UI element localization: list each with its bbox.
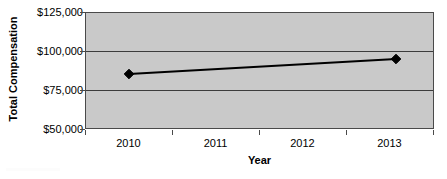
y-tick-label-100000: $100,000	[21, 45, 83, 58]
y-tick-label-75000: $75,000	[21, 84, 83, 97]
gridline-75000	[86, 90, 433, 91]
line-chart: Total Compensation $125,000 $100,000 $75…	[0, 0, 447, 179]
x-axis-title: Year	[85, 153, 434, 167]
x-tick-label-2010: 2010	[85, 136, 172, 150]
x-tick-label-2013: 2013	[346, 136, 433, 150]
x-tick-label-2012: 2012	[259, 136, 346, 150]
x-tick-mark-1	[172, 130, 173, 135]
x-tick-mark-2	[259, 130, 260, 135]
x-tick-mark-3	[346, 130, 347, 135]
y-tick-label-125000: $125,000	[21, 6, 83, 19]
y-tick-label-50000: $50,000	[21, 123, 83, 136]
x-tick-mark-0	[85, 130, 86, 135]
scan-artifact	[6, 168, 60, 171]
x-tick-mark-4	[433, 130, 434, 135]
gridline-100000	[86, 51, 433, 52]
x-tick-label-2011: 2011	[172, 136, 259, 150]
plot-area	[85, 12, 434, 129]
y-axis-tick-labels: $125,000 $100,000 $75,000 $50,000	[19, 0, 83, 179]
y-axis-title: Total Compensation	[6, 5, 20, 133]
